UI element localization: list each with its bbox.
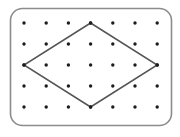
peg-dot-r1-c5[interactable] [133, 42, 136, 45]
rhombus-vertex-left[interactable] [22, 63, 25, 66]
peg-dot-r0-c2[interactable] [67, 21, 70, 24]
peg-dot-r3-c1[interactable] [45, 84, 48, 87]
peg-dot-r3-c4[interactable] [111, 84, 114, 87]
peg-dot-r3-c5[interactable] [133, 84, 136, 87]
peg-dot-r2-c2[interactable] [67, 63, 70, 66]
peg-dot-r1-c4[interactable] [111, 42, 114, 45]
peg-dot-r4-c5[interactable] [133, 105, 136, 108]
geoboard-figure [0, 0, 180, 137]
peg-dot-r1-c2[interactable] [67, 42, 70, 45]
peg-dot-r2-c4[interactable] [111, 63, 114, 66]
peg-dot-r0-c0[interactable] [22, 21, 25, 24]
rhombus-vertex-bottom[interactable] [89, 105, 92, 108]
peg-dot-r0-c1[interactable] [45, 21, 48, 24]
peg-dot-r4-c6[interactable] [156, 105, 159, 108]
peg-dot-r1-c0[interactable] [22, 42, 25, 45]
peg-dot-r2-c1[interactable] [45, 63, 48, 66]
peg-dot-r2-c3[interactable] [89, 63, 92, 66]
peg-dot-r1-c1[interactable] [45, 42, 48, 45]
peg-dot-r0-c6[interactable] [156, 21, 159, 24]
rhombus-vertex-right[interactable] [156, 63, 159, 66]
peg-dot-r4-c0[interactable] [22, 105, 25, 108]
peg-dot-r1-c6[interactable] [156, 42, 159, 45]
rhombus-vertex-top[interactable] [89, 21, 92, 24]
peg-dot-r4-c4[interactable] [111, 105, 114, 108]
peg-dot-r0-c4[interactable] [111, 21, 114, 24]
peg-dot-r4-c2[interactable] [67, 105, 70, 108]
peg-dot-r2-c5[interactable] [133, 63, 136, 66]
peg-dot-r0-c5[interactable] [133, 21, 136, 24]
peg-dot-r3-c0[interactable] [22, 84, 25, 87]
peg-dot-r1-c3[interactable] [89, 42, 92, 45]
peg-dot-r3-c6[interactable] [156, 84, 159, 87]
peg-dot-r3-c3[interactable] [89, 84, 92, 87]
geoboard-canvas [0, 0, 180, 137]
peg-dot-r3-c2[interactable] [67, 84, 70, 87]
peg-dot-r4-c1[interactable] [45, 105, 48, 108]
